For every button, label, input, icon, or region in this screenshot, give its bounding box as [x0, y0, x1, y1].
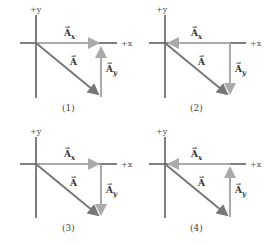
a-label: →A [70, 178, 77, 188]
panel-3: +y +x →Ax →A →Ay (3) [0, 122, 138, 244]
panel-2: +y +x →Ax →A →Ay (2) [138, 0, 276, 122]
y-axis-label: +y [156, 5, 167, 14]
panel-1: +y +x →Ax →A →Ay (1) [0, 0, 138, 122]
panel-caption: (2) [190, 103, 203, 113]
a-label: →A [198, 178, 205, 188]
x-axis-label: +x [250, 39, 261, 48]
vector-diagram-2 [138, 0, 276, 122]
panel-caption: (4) [190, 223, 203, 233]
a-label: →A [198, 57, 205, 67]
ay-label: →Ay [235, 64, 246, 77]
x-axis-label: +x [121, 160, 132, 169]
a-label: →A [70, 57, 77, 67]
panel-caption: (1) [62, 103, 75, 113]
ay-label: →Ay [106, 64, 117, 77]
y-axis-label: +y [156, 127, 167, 136]
ax-label: →Ax [64, 28, 75, 41]
y-axis-label: +y [30, 127, 41, 136]
panel-caption: (3) [62, 223, 75, 233]
ay-label: →Ay [106, 185, 117, 198]
x-axis-label: +x [250, 160, 261, 169]
ax-label: →Ax [191, 149, 202, 162]
ax-label: →Ax [64, 149, 75, 162]
vector-diagram-4 [138, 122, 276, 244]
y-axis-label: +y [30, 5, 41, 14]
panel-4: +y +x →Ax →A →Ay (4) [138, 122, 276, 244]
ax-label: →Ax [191, 28, 202, 41]
ay-label: →Ay [235, 185, 246, 198]
x-axis-label: +x [121, 39, 132, 48]
